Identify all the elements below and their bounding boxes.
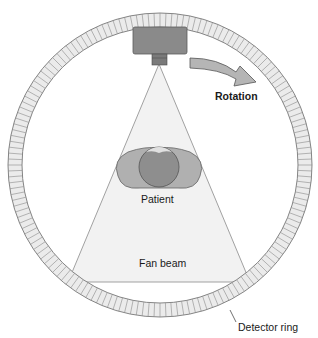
fan-beam-label: Fan beam bbox=[139, 257, 186, 269]
collimator bbox=[152, 54, 167, 65]
rotation-label: Rotation bbox=[215, 90, 258, 102]
patient-figure bbox=[116, 147, 201, 188]
rotation-arrow-icon bbox=[190, 58, 256, 86]
patient-label: Patient bbox=[141, 193, 174, 205]
detector-ring-label: Detector ring bbox=[238, 321, 298, 333]
detector-leader-line bbox=[230, 310, 236, 322]
xray-tube bbox=[133, 27, 187, 65]
ct-diagram bbox=[0, 0, 318, 338]
